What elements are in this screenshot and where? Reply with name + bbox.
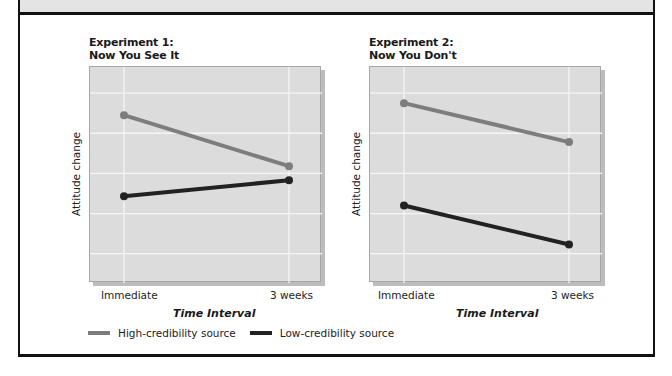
chart-1-xtick-immediate: Immediate <box>101 289 158 301</box>
data-point-marker <box>565 138 573 146</box>
series-line-low-credibility <box>404 206 569 245</box>
chart-2-plot-area <box>369 66 601 282</box>
data-point-marker <box>120 111 128 119</box>
chart-2-svg <box>370 67 602 283</box>
data-point-marker <box>285 176 293 184</box>
legend-label-high: High-credibility source <box>118 327 236 339</box>
data-point-marker <box>565 240 573 248</box>
data-point-marker <box>400 202 408 210</box>
chart-2-x-axis-label: Time Interval <box>456 307 538 320</box>
chart-2-xtick-3-weeks: 3 weeks <box>551 289 594 301</box>
data-point-marker <box>120 192 128 200</box>
chart-1-xtick-3-weeks: 3 weeks <box>270 289 313 301</box>
chart-1-svg <box>90 67 322 283</box>
caption-band <box>18 0 655 15</box>
legend-item-low-credibility: Low-credibility source <box>250 327 394 339</box>
chart-1-x-axis-label: Time Interval <box>173 307 255 320</box>
legend: High-credibility source Low-credibility … <box>88 327 408 339</box>
data-point-marker <box>400 99 408 107</box>
legend-item-high-credibility: High-credibility source <box>88 327 236 339</box>
chart-2-y-axis-label: Attitude change <box>350 132 362 216</box>
data-point-marker <box>285 162 293 170</box>
series-line-low-credibility <box>124 180 289 196</box>
chart-2-title-line1: Experiment 2: <box>369 36 456 49</box>
legend-swatch-low-icon <box>250 331 272 335</box>
chart-2-xtick-immediate: Immediate <box>378 289 435 301</box>
chart-1-title-line2: Now You See It <box>89 49 179 62</box>
chart-1-title: Experiment 1: Now You See It <box>89 36 179 62</box>
series-line-high-credibility <box>404 103 569 142</box>
series-line-high-credibility <box>124 115 289 166</box>
legend-label-low: Low-credibility source <box>280 327 394 339</box>
legend-swatch-high-icon <box>88 331 110 335</box>
chart-1-y-axis-label: Attitude change <box>70 132 82 216</box>
chart-2-title: Experiment 2: Now You Don't <box>369 36 456 62</box>
chart-1-title-line1: Experiment 1: <box>89 36 179 49</box>
chart-1-plot-area <box>89 66 321 282</box>
chart-2-title-line2: Now You Don't <box>369 49 456 62</box>
